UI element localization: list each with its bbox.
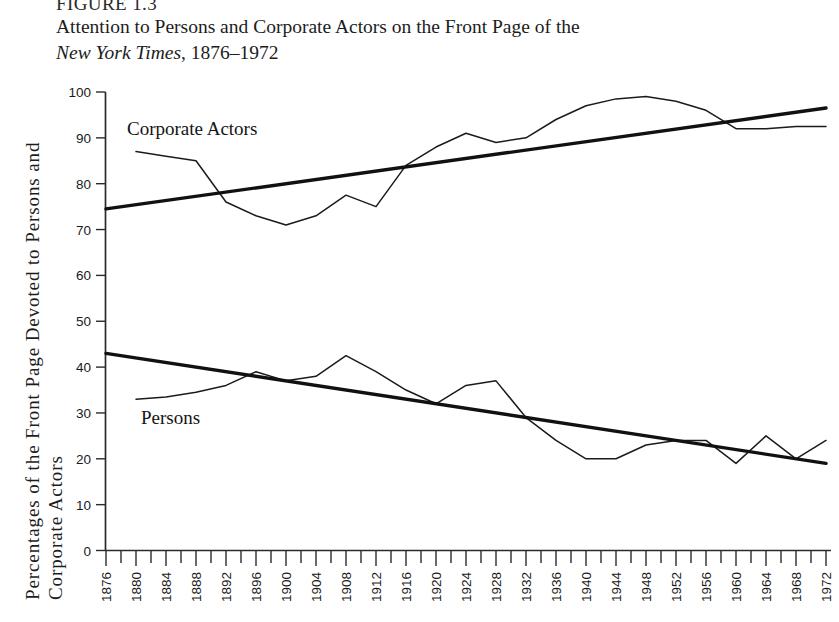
x-tick-label: 1920	[429, 572, 444, 602]
x-tick-label: 1940	[579, 572, 594, 602]
y-tick-labels: 0102030405060708090100	[68, 85, 91, 559]
line-chart: 0102030405060708090100 18761880188418881…	[0, 0, 839, 622]
x-tick-label: 1948	[639, 572, 654, 602]
x-tick-label: 1956	[699, 572, 714, 602]
series-corporate-actors	[136, 97, 826, 225]
x-tick-label: 1892	[219, 572, 234, 602]
x-tick-label: 1908	[339, 572, 354, 602]
y-axis: 0102030405060708090100	[68, 85, 105, 559]
y-ticks	[96, 92, 106, 551]
y-tick-label: 10	[76, 498, 91, 513]
x-tick-label: 1944	[609, 572, 624, 603]
y-tick-label: 40	[76, 360, 91, 375]
y-tick-label: 70	[76, 223, 91, 238]
x-tick-label: 1916	[399, 572, 414, 602]
x-tick-label: 1932	[519, 572, 534, 602]
x-tick-label: 1924	[459, 572, 474, 603]
x-tick-label: 1928	[489, 572, 504, 602]
data-series	[106, 97, 826, 464]
x-tick-label: 1968	[789, 572, 804, 602]
y-tick-label: 50	[76, 314, 91, 329]
series-label-corporate-actors: Corporate Actors	[127, 118, 257, 139]
y-tick-label: 80	[76, 177, 91, 192]
x-tick-label: 1896	[249, 572, 264, 602]
x-tick-label: 1888	[189, 572, 204, 602]
x-tick-label: 1960	[729, 572, 744, 602]
y-tick-label: 20	[76, 452, 91, 467]
y-tick-label: 0	[83, 544, 91, 559]
x-tick-label: 1952	[669, 572, 684, 602]
y-tick-label: 60	[76, 268, 91, 283]
x-tick-label: 1936	[549, 572, 564, 602]
x-tick-label: 1876	[99, 572, 114, 602]
series-persons-trend	[106, 353, 826, 463]
y-tick-label: 30	[76, 406, 91, 421]
x-tick-label: 1904	[309, 572, 324, 603]
figure-container: FIGURE 1.3 Attention to Persons and Corp…	[0, 0, 839, 622]
x-tick-labels: 1876188018841888189218961900190419081912…	[99, 572, 834, 603]
x-tick-label: 1884	[159, 572, 174, 603]
x-tick-label: 1900	[279, 572, 294, 602]
x-tick-label: 1880	[129, 572, 144, 602]
y-tick-label: 90	[76, 131, 91, 146]
x-axis: 1876188018841888189218961900190419081912…	[99, 551, 834, 603]
x-minor-ticks	[106, 551, 826, 567]
x-tick-label: 1964	[759, 572, 774, 603]
x-tick-label: 1972	[819, 572, 834, 602]
series-label-persons: Persons	[141, 407, 200, 428]
y-tick-label: 100	[68, 85, 91, 100]
x-tick-label: 1912	[369, 572, 384, 602]
